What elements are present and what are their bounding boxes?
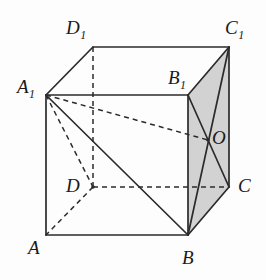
segment-A1-O: [46, 95, 208, 140]
vertex-label-A1: A1: [17, 77, 35, 100]
vertex-label-C: C: [238, 176, 251, 195]
vertex-label-D1-base: D: [66, 17, 80, 38]
vertex-label-C1-base: C: [225, 17, 238, 38]
vertex-dot-D: [91, 185, 95, 189]
vertex-label-D1-subscript: 1: [80, 28, 86, 42]
vertex-label-C1: C1: [225, 18, 244, 41]
vertex-label-D: D: [66, 176, 80, 195]
vertex-label-D-base: D: [66, 175, 80, 196]
vertex-label-C1-subscript: 1: [238, 28, 244, 42]
vertex-label-A: A: [28, 238, 40, 257]
vertex-label-B1-subscript: 1: [180, 78, 186, 92]
vertex-label-B1: B1: [168, 68, 186, 91]
vertex-label-A1-base: A: [17, 76, 29, 97]
edge-A1-D: [46, 95, 93, 187]
vertex-label-O-base: O: [212, 127, 226, 148]
edge-A1-D1: [46, 47, 93, 95]
vertex-label-D1: D1: [66, 18, 86, 41]
vertex-label-A-base: A: [28, 237, 40, 258]
geometry-figure: ABCDA1B1C1D1O: [0, 0, 266, 280]
vertex-label-O: O: [212, 128, 226, 147]
vertex-label-B: B: [182, 248, 194, 267]
vertex-label-A1-subscript: 1: [29, 87, 35, 101]
vertex-label-B-base: B: [182, 247, 194, 268]
vertex-dot-O: [206, 138, 210, 142]
vertex-label-C-base: C: [238, 175, 251, 196]
vertex-label-B1-base: B: [168, 67, 180, 88]
